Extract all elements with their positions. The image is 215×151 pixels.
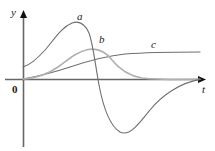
function-graph-figure: y t 0 a b c: [0, 0, 215, 151]
plot-canvas: [0, 0, 215, 151]
curve-b: [23, 49, 200, 80]
curve-a: [23, 22, 200, 133]
curve-label-c: c: [151, 39, 156, 50]
curve-label-a: a: [77, 11, 83, 22]
curve-c: [23, 52, 200, 79]
x-axis-label: t: [202, 84, 205, 95]
origin-label: 0: [12, 84, 18, 95]
y-axis-label: y: [11, 7, 16, 18]
y-axis-arrowhead: [20, 10, 27, 18]
curve-label-b: b: [99, 34, 105, 45]
